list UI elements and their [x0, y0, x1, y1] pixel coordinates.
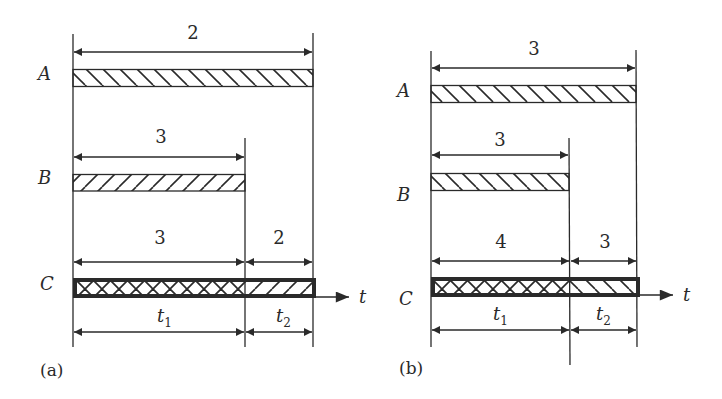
duration-label-b: 3: [494, 129, 505, 150]
bar-a: [431, 86, 636, 103]
axis-label-t: t: [683, 284, 691, 305]
row-label-a: A: [395, 80, 410, 101]
row-label-c: C: [399, 288, 413, 309]
duration-label-a: 2: [187, 22, 198, 43]
duration-label-c1: 4: [495, 231, 506, 252]
time-label-t2: t2: [596, 303, 611, 328]
gantt-diagram: A B C 2 3 3 2 t t1 t2 (a) A B C: [0, 0, 722, 399]
bar-c-seg2: [245, 280, 313, 296]
panel-caption-a: (a): [40, 360, 63, 380]
axis-label-t: t: [359, 286, 367, 307]
time-label-t1: t1: [493, 303, 508, 328]
bar-c-seg1: [433, 279, 570, 295]
bar-c-seg2: [570, 279, 637, 295]
duration-label-b: 3: [155, 126, 166, 147]
guide-line-mid: [569, 138, 570, 365]
row-label-c: C: [40, 273, 54, 294]
time-label-t2: t2: [276, 305, 291, 330]
panel-a: [73, 33, 349, 347]
row-label-a: A: [36, 63, 51, 84]
row-label-b: B: [37, 167, 51, 188]
bar-b: [431, 174, 569, 191]
duration-label-c1: 3: [154, 227, 165, 248]
bar-c-seg1: [75, 280, 245, 296]
time-label-t1: t1: [157, 305, 172, 330]
row-label-b: B: [396, 184, 410, 205]
panel-caption-b: (b): [399, 358, 423, 378]
bar-a: [73, 70, 313, 87]
duration-label-a: 3: [528, 38, 539, 59]
duration-label-c2: 2: [273, 227, 284, 248]
panel-b: [431, 50, 673, 365]
bar-b: [73, 175, 245, 192]
duration-label-c2: 3: [599, 231, 610, 252]
